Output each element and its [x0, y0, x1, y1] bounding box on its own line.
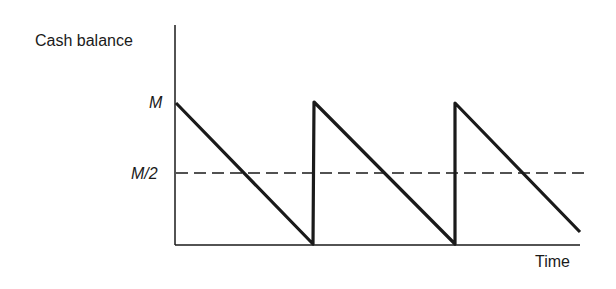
y-axis-label: Cash balance	[35, 32, 133, 50]
x-axis-label: Time	[535, 253, 570, 271]
tick-label-m-half: M/2	[131, 165, 158, 183]
tick-label-m: M	[149, 94, 162, 112]
